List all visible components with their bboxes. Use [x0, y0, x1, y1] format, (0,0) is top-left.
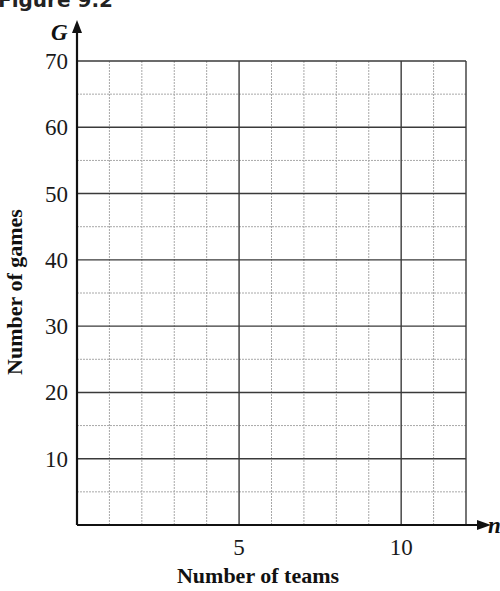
- y-axis-title: Number of games: [2, 209, 27, 375]
- y-tick-label: 30: [45, 314, 68, 339]
- y-tick-label: 20: [45, 380, 68, 405]
- y-tick-label: 40: [45, 248, 68, 273]
- y-tick-labels: 10203040506070: [45, 49, 68, 472]
- y-tick-label: 10: [45, 447, 68, 472]
- x-tick-labels: 510: [233, 535, 412, 560]
- axes: [72, 20, 491, 530]
- minor-grid: [77, 61, 466, 525]
- x-tick-label: 5: [233, 535, 245, 560]
- x-axis-title: Number of teams: [177, 563, 340, 588]
- chart: 10203040506070 510 G n Number of games N…: [0, 0, 500, 591]
- x-variable-label: n: [488, 513, 500, 538]
- x-tick-label: 10: [390, 535, 413, 560]
- y-tick-label: 50: [45, 182, 68, 207]
- y-axis-arrow-icon: [72, 20, 82, 33]
- y-variable-label: G: [51, 20, 68, 45]
- y-tick-label: 60: [45, 115, 68, 140]
- y-tick-label: 70: [45, 49, 68, 74]
